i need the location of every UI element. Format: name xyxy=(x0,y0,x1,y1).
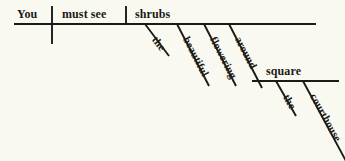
label-object-shrubs: shrubs xyxy=(135,8,170,20)
diagram-lines xyxy=(0,0,345,161)
label-prep-object-square: square xyxy=(266,65,301,77)
label-subject-you: You xyxy=(17,8,37,20)
label-verb-must-see: must see xyxy=(62,8,106,20)
sentence-diagram: You must see shrubs the beautiful flower… xyxy=(0,0,345,161)
